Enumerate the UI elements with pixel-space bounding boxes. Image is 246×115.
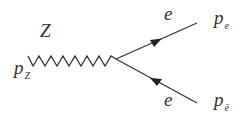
outgoing-arrow-icon [150, 39, 162, 48]
positron-momentum: pē [214, 89, 228, 111]
boson-label: Z [40, 20, 51, 42]
positron-label: e [164, 89, 172, 111]
boson-momentum: pZ [14, 57, 29, 79]
electron-label: e [164, 3, 172, 25]
electron-momentum: pe [214, 7, 228, 29]
feynman-diagram [0, 0, 246, 115]
z-boson-propagator [28, 56, 116, 66]
incoming-arrow-icon [150, 78, 162, 86]
